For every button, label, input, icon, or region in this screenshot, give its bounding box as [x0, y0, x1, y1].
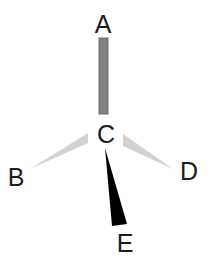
- bond-c-a-bar: [99, 38, 108, 114]
- atom-label-e: E: [117, 229, 134, 257]
- atom-label-b: B: [8, 163, 25, 191]
- chemical-structure-diagram: A B C D E: [0, 0, 213, 262]
- atom-label-d: D: [180, 157, 198, 185]
- atom-label-c: C: [97, 120, 115, 148]
- bond-c-a: [99, 38, 108, 114]
- atom-label-a: A: [95, 10, 112, 38]
- diagram-canvas: A B C D E: [0, 0, 213, 262]
